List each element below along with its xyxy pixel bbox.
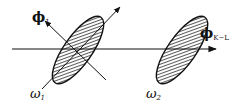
phi-kl-label: ϕK−L bbox=[200, 25, 229, 42]
omega2-label: ω2 bbox=[146, 86, 162, 102]
diagram-canvas: ϕ1 ϕK−L ω1 ω2 bbox=[0, 0, 236, 108]
diagram-svg: ϕ1 ϕK−L ω1 ω2 bbox=[0, 0, 236, 108]
major-axis-arrow bbox=[42, 7, 120, 89]
class-region-omega1 bbox=[44, 9, 113, 91]
phi1-label: ϕ1 bbox=[32, 9, 50, 26]
class-region-omega2 bbox=[148, 9, 217, 91]
